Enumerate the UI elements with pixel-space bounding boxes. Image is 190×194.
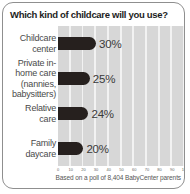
x-axis-tick-label: 70 [145, 167, 149, 172]
bar-row: Family daycare 20% [3, 131, 185, 166]
x-axis-tick-label: 60 [132, 167, 136, 172]
category-label: Relative care [4, 103, 56, 124]
bar-area: 30% [58, 26, 185, 61]
poll-footnote: Based on a poll of 8,404 BabyCenter pare… [21, 174, 181, 181]
x-axis-tick-label: 40 [107, 167, 111, 172]
x-axis-tick-label: 50 [119, 167, 123, 172]
chart-card: Which kind of childcare will you use? Ch… [2, 2, 185, 189]
x-axis-tick-label: 20 [81, 167, 85, 172]
bar-rows: Childcare center 30% Private in- home ca… [3, 26, 185, 166]
x-axis-tick-label: 10 [68, 167, 72, 172]
bar-value-label: 25% [93, 73, 115, 85]
bar-value-label: 24% [91, 108, 113, 120]
bar-area: 24% [58, 96, 185, 131]
bar [58, 37, 96, 50]
bar-value-label: 30% [99, 38, 121, 50]
x-axis-tick-label: 100 [182, 167, 185, 172]
bar-row: Childcare center 30% [3, 26, 185, 61]
chart-title: Which kind of childcare will you use? [10, 9, 182, 20]
x-axis-tick-label: 80 [157, 167, 161, 172]
bar-value-label: 20% [86, 143, 108, 155]
bar-area: 25% [58, 61, 185, 96]
plot-area: Childcare center 30% Private in- home ca… [3, 26, 185, 166]
category-label: Childcare center [4, 33, 56, 54]
bar-area: 20% [58, 131, 185, 166]
x-axis-tick-label: 0 [57, 167, 59, 172]
x-axis-tick-label: 90 [170, 167, 174, 172]
bar [58, 142, 83, 155]
bar-row: Private in- home care (nannies, babysitt… [3, 61, 185, 96]
x-axis-tick-label: 30 [94, 167, 98, 172]
bar [58, 72, 90, 85]
bar [58, 107, 88, 120]
category-label: Private in- home care (nannies, babysitt… [4, 58, 56, 100]
x-axis-ticks: 0102030405060708090100 [58, 167, 185, 174]
category-label: Family daycare [4, 138, 56, 159]
bar-row: Relative care 24% [3, 96, 185, 131]
